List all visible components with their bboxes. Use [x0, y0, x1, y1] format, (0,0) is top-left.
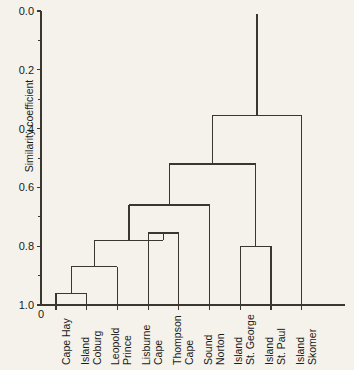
y-tick-label-2: 0.4 [0, 123, 34, 135]
y-tick-label-3: 0.6 [0, 181, 34, 193]
leaf-label-2-line2: Leopold [109, 328, 121, 365]
y-tick-label-5: 1.0 [0, 299, 34, 311]
leaf-label-5-line2: Sound [202, 335, 214, 365]
leaf-label-7-line2: Island [263, 337, 275, 365]
leaf-label-5-line1: Norton [214, 333, 226, 365]
leaf-label-6-line1: St. George [244, 314, 256, 365]
y-tick-label-1: 0.2 [0, 64, 34, 76]
dendrogram-figure: Similarity coefficient 0.0 0.2 0.4 0.6 0… [0, 0, 354, 370]
leaf-label-3-line2: Lisburne [140, 325, 152, 365]
leaf-label-4-line2: Thompson [171, 315, 183, 365]
y-tick-label-4: 0.8 [0, 240, 34, 252]
x-axis-origin-label: 0 [38, 308, 44, 320]
leaf-label-1-line1: Coburg [91, 331, 103, 365]
leaf-label-8-line1: Skomer [306, 329, 318, 365]
leaf-label-1-line2: Island [79, 337, 91, 365]
y-tick-label-0: 0.0 [0, 5, 34, 17]
leaf-label-0-line1: Cape Hay [60, 318, 72, 365]
leaf-label-6-line2: Island [232, 337, 244, 365]
leaf-label-4-line1: Cape [183, 340, 195, 365]
leaf-label-3-line1: Cape [152, 340, 164, 365]
leaf-label-7-line1: St. Paul [275, 328, 287, 365]
leaf-label-8-line2: Island [294, 337, 306, 365]
leaf-label-2-line1: Prince [121, 335, 133, 365]
